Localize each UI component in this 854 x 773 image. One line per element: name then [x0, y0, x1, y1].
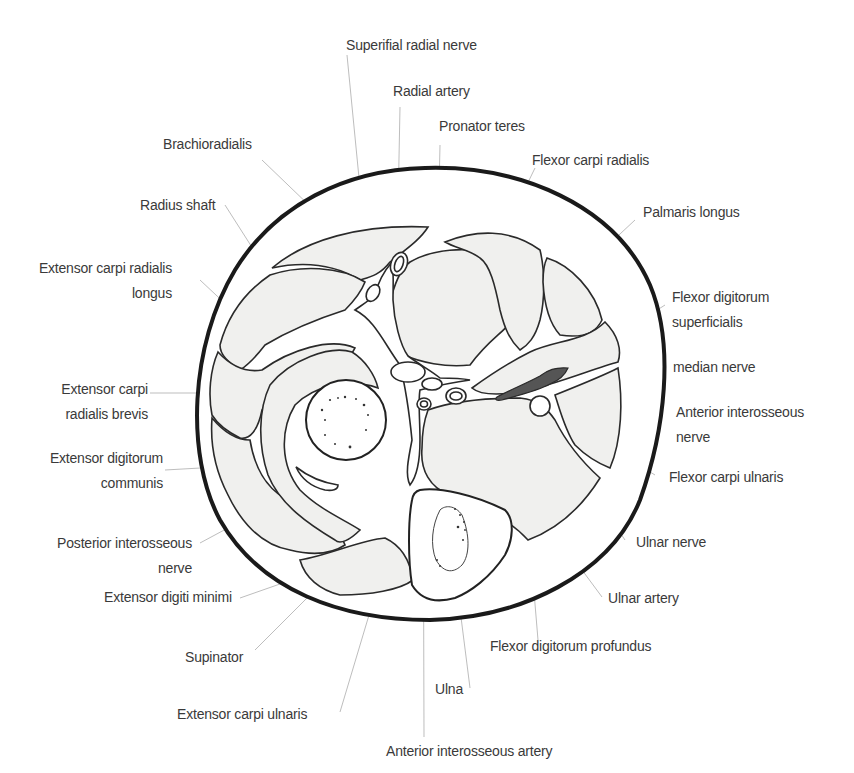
label-anterior-interosseous-nerve: Anterior interosseous nerve [676, 400, 804, 450]
ulnar-nerve-shape [530, 396, 550, 416]
vessel-oval-1 [391, 362, 425, 382]
label-fdp: Flexor digitorum profundus [490, 634, 651, 659]
label-palmaris-longus: Palmaris longus [643, 200, 740, 225]
label-flexor-carpi-ulnaris: Flexor carpi ulnaris [669, 465, 783, 490]
label-ulnar-artery: Ulnar artery [608, 586, 679, 611]
label-edc: Extensor digitorum communis [33, 446, 163, 496]
label-ecrb: Extensor carpi radialis brevis [40, 377, 148, 427]
label-brachioradialis: Brachioradialis [163, 132, 252, 157]
anterior-interosseous-artery-lumen [421, 401, 428, 407]
radius-shaft-shape [306, 380, 386, 460]
label-pronator-teres: Pronator teres [439, 114, 525, 139]
label-ecrl: Extensor carpi radialis longus [33, 256, 172, 306]
label-radius-shaft: Radius shaft [140, 193, 215, 218]
label-ulnar-nerve: Ulnar nerve [636, 530, 706, 555]
label-fds: Flexor digitorum superficialis [672, 285, 769, 335]
vessel-oval-2 [422, 378, 442, 390]
label-anterior-interosseous-artery: Anterior interosseous artery [386, 739, 552, 764]
label-median-nerve: median nerve [673, 355, 755, 380]
label-ulna: Ulna [435, 677, 463, 702]
label-superficial-radial-nerve: Superifial radial nerve [346, 33, 477, 58]
label-flexor-carpi-radialis: Flexor carpi radialis [532, 148, 649, 173]
ulnar-artery-lumen [450, 392, 462, 400]
label-supinator: Supinator [185, 645, 243, 670]
label-posterior-interosseous-nerve: Posterior interosseous nerve [40, 531, 192, 581]
label-extensor-carpi-ulnaris: Extensor carpi ulnaris [177, 702, 307, 727]
label-radial-artery: Radial artery [393, 79, 470, 104]
label-extensor-digiti-minimi: Extensor digiti minimi [104, 585, 232, 610]
